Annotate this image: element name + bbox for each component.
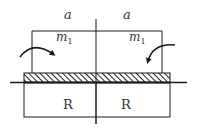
moment-label-left: m1 — [56, 30, 72, 46]
block-label-right: R — [121, 97, 132, 112]
block-label-left: R — [63, 97, 74, 112]
moment-label-left-sub: 1 — [67, 37, 72, 46]
hatched-plate — [24, 73, 170, 82]
moment-label-right-main: m — [129, 30, 140, 44]
moment-label-right-sub: 1 — [140, 37, 145, 46]
bottom-block — [24, 83, 170, 117]
moment-label-left-main: m — [56, 30, 67, 44]
moment-arrow-left-icon — [20, 48, 53, 57]
beam-moment-diagram: a a m1 m1 R R — [0, 0, 199, 134]
span-label-left: a — [64, 7, 72, 22]
moment-label-right: m1 — [129, 30, 145, 46]
span-label-right: a — [123, 7, 131, 22]
